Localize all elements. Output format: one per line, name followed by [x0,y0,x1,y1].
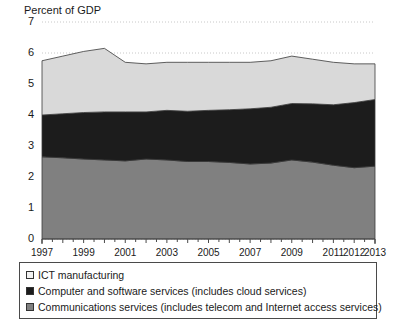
x-tick-label: 2013 [364,247,386,258]
x-tick-label: 1999 [73,247,95,258]
y-tick-label: 7 [18,16,34,27]
x-tick-label: 2001 [114,247,136,258]
x-tick-label: 2012 [343,247,365,258]
legend-item: ICT manufacturing [26,267,376,283]
x-tick-label: 2007 [239,247,261,258]
legend-swatch-ict-manufacturing [26,271,34,279]
area-series-group [42,48,375,239]
legend-label-ict-manufacturing: ICT manufacturing [38,269,124,281]
legend-label-communications-services: Communications services (includes teleco… [38,301,382,313]
y-tick-label: 4 [18,109,34,120]
y-tick-label: 2 [18,171,34,182]
plot-area [0,0,396,260]
x-tick-label: 1997 [31,247,53,258]
y-tick-label: 3 [18,140,34,151]
y-tick-label: 0 [18,233,34,244]
y-tick-label: 6 [18,47,34,58]
legend-item: Communications services (includes teleco… [26,299,376,315]
y-tick-label: 1 [18,202,34,213]
x-tick-marks-group [42,239,375,243]
x-tick-label: 2003 [156,247,178,258]
stacked-area-chart-figure: Percent of GDP 01234567 1997199920012003… [0,0,396,329]
area-series [42,157,375,239]
x-tick-label: 2009 [281,247,303,258]
chart-legend: ICT manufacturing Computer and software … [19,262,377,319]
x-tick-label: 2005 [197,247,219,258]
legend-item: Computer and software services (includes… [26,283,376,299]
x-tick-label: 2011 [323,247,345,258]
legend-swatch-communications-services [26,303,34,311]
legend-label-computer-software-services: Computer and software services (includes… [38,285,306,297]
y-tick-label: 5 [18,78,34,89]
legend-swatch-computer-software-services [26,287,34,295]
